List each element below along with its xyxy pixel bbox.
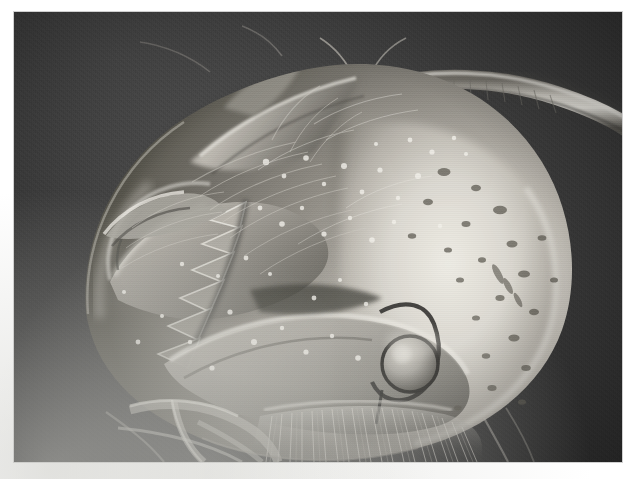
specimen-illustration (14, 12, 622, 462)
seta (140, 42, 210, 72)
page-background (0, 0, 632, 479)
seta (506, 408, 534, 462)
micrograph-plate (14, 12, 622, 462)
figure-caption (14, 466, 344, 478)
specimen-group (14, 12, 622, 462)
seta (484, 418, 508, 462)
seta (242, 26, 282, 56)
